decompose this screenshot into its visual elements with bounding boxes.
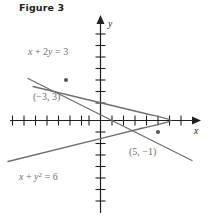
y-axis-arrowhead xyxy=(97,15,105,24)
parabola-equation-label: x + y2 = 6 xyxy=(18,171,58,182)
point-label-1: (−3, 3) xyxy=(33,91,60,103)
coordinate-plot: x + 2y = 3 x + y2 = 6 (−3, 3) (5, −1) y … xyxy=(0,0,210,223)
intersection-point-2 xyxy=(156,130,160,134)
axes-group xyxy=(10,15,201,213)
intersection-point-1 xyxy=(64,78,68,82)
line-equation-label: x + 2y = 3 xyxy=(27,46,68,57)
x-axis-arrowhead xyxy=(192,117,201,125)
point-label-2: (5, −1) xyxy=(129,146,156,158)
x-axis-label: x xyxy=(193,126,199,136)
y-axis-label: y xyxy=(107,19,113,29)
figure-container: Figure 3 xyxy=(0,0,210,223)
